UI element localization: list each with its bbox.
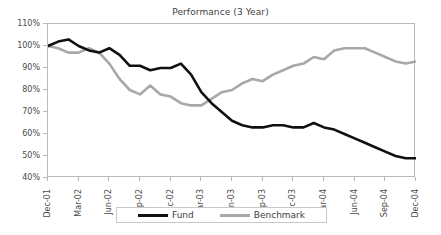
x-axis-tick-mark (47, 177, 48, 181)
y-axis-tick-label: 110% (17, 19, 40, 28)
y-axis-tick-label: 60% (22, 129, 40, 138)
x-axis-tick-mark (170, 177, 171, 181)
chart-container: Performance (3 Year) 110%100%90%80%70%60… (0, 0, 441, 235)
y-axis-tick-label: 50% (22, 151, 40, 160)
x-axis-tick-label: Dec-04 (411, 189, 420, 218)
plot-area (47, 23, 415, 177)
x-axis-tick-mark (384, 177, 385, 181)
x-axis-tick-mark (200, 177, 201, 181)
x-axis-tick-mark (323, 177, 324, 181)
x-axis-tick-mark (231, 177, 232, 181)
chart-legend: FundBenchmark (116, 207, 327, 223)
x-axis-tick-mark (354, 177, 355, 181)
legend-item-benchmark[interactable]: Benchmark (220, 211, 305, 220)
legend-label: Fund (172, 211, 194, 220)
x-axis-tick-label: Sep-04 (380, 189, 389, 217)
x-axis-tick-mark (415, 177, 416, 181)
y-axis-tick-label: 40% (22, 173, 40, 182)
x-axis-tick-label: Dec-01 (43, 189, 52, 218)
x-axis-tick-label: Jun-02 (104, 189, 113, 215)
legend-item-fund[interactable]: Fund (138, 211, 194, 220)
chart-title: Performance (3 Year) (0, 7, 441, 17)
legend-line-icon (138, 214, 168, 217)
x-axis-tick-mark (292, 177, 293, 181)
legend-line-icon (220, 214, 250, 217)
x-axis-tick-label: Mar-02 (74, 189, 83, 217)
y-axis-tick-label: 70% (22, 107, 40, 116)
plot-svg (48, 24, 416, 178)
series-line-benchmark (48, 46, 416, 105)
x-axis-tick-mark (139, 177, 140, 181)
y-axis-tick-label: 100% (17, 41, 40, 50)
y-axis-tick-label: 80% (22, 85, 40, 94)
y-axis: 110%100%90%80%70%60%50%40% (0, 23, 47, 177)
x-axis-tick-label: Jun-04 (350, 189, 359, 215)
x-axis-tick-mark (78, 177, 79, 181)
x-axis-tick-mark (262, 177, 263, 181)
legend-label: Benchmark (254, 211, 305, 220)
y-axis-tick-label: 90% (22, 63, 40, 72)
x-axis-tick-mark (108, 177, 109, 181)
